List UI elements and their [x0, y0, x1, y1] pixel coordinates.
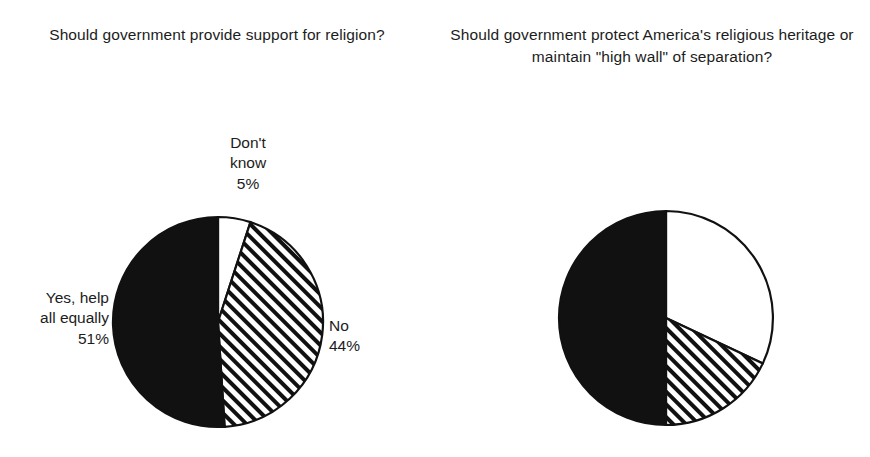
pie-slice-left-yes: [113, 217, 225, 427]
chart-title-left: Should government provide support for re…: [22, 24, 412, 46]
pie-label-left-no: No 44%: [329, 316, 415, 357]
chart-title-right: Should government protect America's reli…: [443, 24, 861, 69]
chart-panel-left: Should government provide support for re…: [0, 0, 435, 457]
pie-label-left-dont-know: Don't know 5%: [196, 133, 300, 194]
chart-panel-right: Should government protect America's reli…: [435, 0, 870, 457]
pie-chart-right: [558, 210, 774, 426]
pie-label-left-yes: Yes, help all equally 51%: [2, 288, 109, 349]
pie-chart-figure: Should government provide support for re…: [0, 0, 870, 457]
pie-slice-right-maintain: [559, 211, 666, 425]
pie-svg-right: [558, 210, 774, 426]
pie-svg-left: [112, 216, 324, 428]
pie-chart-left: [112, 216, 324, 428]
